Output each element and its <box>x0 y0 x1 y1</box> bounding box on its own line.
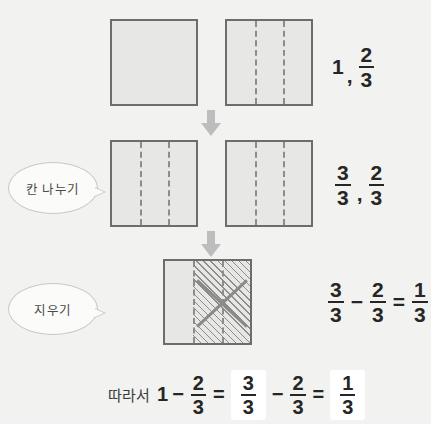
divider-line <box>283 21 285 104</box>
equals-sign: = <box>313 383 325 406</box>
numerator: 2 <box>370 279 386 300</box>
fraction-two-thirds: 2 3 <box>359 44 375 91</box>
answer-box-one-third: 1 3 <box>330 370 365 420</box>
equals-sign: = <box>213 383 225 406</box>
fraction-one-third: 1 3 <box>340 373 355 418</box>
result-square <box>163 259 252 345</box>
minus-sign: − <box>351 290 363 314</box>
minus-sign: − <box>272 383 284 406</box>
denominator: 3 <box>191 397 206 417</box>
fraction-two-thirds: 2 3 <box>191 373 206 418</box>
thirds-square-left <box>110 140 198 227</box>
numerator: 2 <box>290 373 305 393</box>
thirds-square-right <box>225 140 313 227</box>
fraction-one-third: 1 3 <box>412 279 428 326</box>
numerator: 1 <box>340 373 355 393</box>
bubble-tail <box>95 187 106 197</box>
bubble-text: 칸 나누기 <box>26 179 80 198</box>
whole-number: 1 <box>157 383 168 406</box>
fraction-two-thirds: 2 3 <box>290 373 305 418</box>
denominator: 3 <box>241 397 256 417</box>
minus-sign: − <box>172 383 184 406</box>
divider-line <box>283 142 285 225</box>
row-2-expression: 3 3 , 2 3 <box>332 162 387 209</box>
denominator: 3 <box>290 397 305 417</box>
divider-line <box>193 261 195 343</box>
numerator: 3 <box>241 373 256 393</box>
label-bubble-erase: 지우기 <box>8 283 98 335</box>
divider-line <box>255 142 257 225</box>
arrow-step-2 <box>201 231 221 257</box>
thirds-square <box>225 19 313 106</box>
conclusion-lead: 따라서 <box>108 384 150 405</box>
bubble-text: 지우기 <box>34 300 72 319</box>
denominator: 3 <box>369 187 385 208</box>
answer-box-three-thirds: 3 3 <box>231 370 266 420</box>
denominator: 3 <box>340 397 355 417</box>
equals-sign: = <box>393 290 405 314</box>
arrow-head <box>201 123 221 136</box>
numerator: 3 <box>335 162 351 183</box>
denominator: 3 <box>370 304 386 325</box>
numerator: 3 <box>328 279 344 300</box>
conclusion-equation: 따라서 1 − 2 3 = 3 3 − 2 3 = 1 3 <box>108 370 367 420</box>
divider-line <box>222 261 224 343</box>
whole-number: 1 <box>332 55 344 79</box>
denominator: 3 <box>335 187 351 208</box>
separator: , <box>357 182 363 209</box>
denominator: 3 <box>359 69 375 90</box>
bubble-tail <box>95 308 106 318</box>
row-3-expression: 3 3 − 2 3 = 1 3 <box>325 279 431 326</box>
arrow-head <box>201 244 221 257</box>
numerator: 2 <box>359 44 375 65</box>
fraction-three-thirds: 3 3 <box>328 279 344 326</box>
whole-square <box>110 19 198 106</box>
label-bubble-divide: 칸 나누기 <box>8 162 98 214</box>
divider-line <box>168 142 170 225</box>
fraction-three-thirds: 3 3 <box>335 162 351 209</box>
denominator: 3 <box>412 304 428 325</box>
fraction-two-thirds: 2 3 <box>369 162 385 209</box>
numerator: 1 <box>412 279 428 300</box>
row-1-expression: 1 , 2 3 <box>332 44 377 91</box>
divider-line <box>140 142 142 225</box>
separator: , <box>347 64 353 91</box>
arrow-shaft <box>207 231 215 245</box>
arrow-step-1 <box>201 110 221 136</box>
arrow-shaft <box>207 110 215 124</box>
denominator: 3 <box>328 304 344 325</box>
numerator: 2 <box>369 162 385 183</box>
numerator: 2 <box>191 373 206 393</box>
fraction-three-thirds: 3 3 <box>241 373 256 418</box>
fraction-two-thirds: 2 3 <box>370 279 386 326</box>
divider-line <box>255 21 257 104</box>
